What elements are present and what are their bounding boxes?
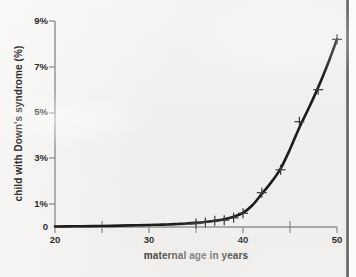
data-point-markers [191,34,342,228]
page-edge-outer-margin [349,0,356,277]
risk-curve [55,39,337,226]
downs-syndrome-risk-chart: child with Down's syndrome (%) maternal … [0,0,356,277]
plot-area [0,0,356,277]
y-axis-ticks [49,21,55,204]
scanned-page-background: child with Down's syndrome (%) maternal … [0,0,356,277]
